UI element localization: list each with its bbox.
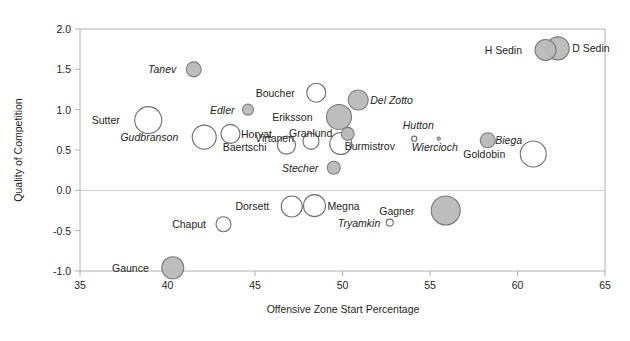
y-tick-label: 2.0 bbox=[56, 23, 71, 35]
data-label-sutter: Sutter bbox=[92, 114, 121, 126]
data-point-gaunce[interactable] bbox=[162, 257, 184, 279]
data-point-tanev[interactable] bbox=[186, 62, 201, 77]
data-label-h-sedin: H Sedin bbox=[485, 44, 523, 56]
data-label-chaput: Chaput bbox=[172, 218, 206, 230]
y-tick-label: -1.0 bbox=[53, 265, 71, 277]
data-point-stecher[interactable] bbox=[327, 161, 340, 174]
data-point-gudbranson[interactable] bbox=[192, 125, 216, 149]
y-tick-label: 1.5 bbox=[56, 63, 71, 75]
data-point-tryamkin[interactable] bbox=[386, 219, 393, 226]
data-label-eriksson: Eriksson bbox=[272, 111, 312, 123]
data-label-gagner: Gagner bbox=[379, 205, 415, 217]
data-label-boucher: Boucher bbox=[256, 87, 296, 99]
data-point-edler[interactable] bbox=[243, 104, 254, 115]
data-label-granlund: Granlund bbox=[289, 127, 332, 139]
y-axis-title: Quality of Competition bbox=[12, 98, 24, 201]
data-label-biega: Biega bbox=[495, 134, 522, 146]
data-label-dorsett: Dorsett bbox=[235, 200, 269, 212]
x-tick-label: 60 bbox=[512, 279, 524, 291]
y-tick-label: 0.5 bbox=[56, 144, 71, 156]
data-point-goldobin[interactable] bbox=[520, 141, 546, 167]
data-label-megna: Megna bbox=[328, 200, 360, 212]
data-point-chaput[interactable] bbox=[216, 217, 231, 232]
x-tick-label: 55 bbox=[424, 279, 436, 291]
chart-canvas: 35404550556065 2.01.51.00.50.0-0.5-1.0 T… bbox=[0, 0, 630, 341]
bubble-chart: 35404550556065 2.01.51.00.50.0-0.5-1.0 T… bbox=[0, 0, 630, 341]
data-point-eriksson[interactable] bbox=[327, 104, 352, 129]
data-point-boucher[interactable] bbox=[307, 83, 326, 102]
x-tick-label: 35 bbox=[74, 279, 86, 291]
data-point-del-zotto[interactable] bbox=[348, 90, 368, 110]
data-label-goldobin: Goldobin bbox=[463, 148, 505, 160]
data-point-h-sedin[interactable] bbox=[535, 39, 556, 60]
x-axis-title: Offensive Zone Start Percentage bbox=[267, 303, 420, 315]
data-label-tryamkin: Tryamkin bbox=[338, 217, 381, 229]
data-point-gagner[interactable] bbox=[431, 196, 460, 225]
y-tick-label: 0.0 bbox=[56, 184, 71, 196]
data-label-burmistrov: Burmistrov bbox=[345, 140, 396, 152]
x-axis-ticks: 35404550556065 bbox=[74, 271, 611, 291]
x-tick-label: 45 bbox=[249, 279, 261, 291]
x-tick-label: 50 bbox=[337, 279, 349, 291]
data-label-tanev: Tanev bbox=[148, 63, 177, 75]
data-label-hutton: Hutton bbox=[403, 119, 434, 131]
y-axis-ticks: 2.01.51.00.50.0-0.5-1.0 bbox=[53, 23, 80, 277]
data-label-del-zotto: Del Zotto bbox=[370, 94, 413, 106]
data-point-biega[interactable] bbox=[480, 133, 495, 148]
data-point-dorsett[interactable] bbox=[281, 196, 302, 217]
data-point-sutter[interactable] bbox=[135, 107, 162, 134]
data-label-stecher: Stecher bbox=[282, 162, 319, 174]
x-tick-label: 40 bbox=[162, 279, 174, 291]
x-tick-label: 65 bbox=[599, 279, 611, 291]
data-label-d-sedin: D Sedin bbox=[572, 42, 610, 54]
data-point-megna[interactable] bbox=[304, 195, 326, 217]
data-label-gudbranson: Gudbranson bbox=[120, 131, 178, 143]
y-tick-label: 1.0 bbox=[56, 104, 71, 116]
data-label-gaunce: Gaunce bbox=[112, 262, 149, 274]
y-tick-label: -0.5 bbox=[53, 225, 71, 237]
data-label-wiercioch: Wiercioch bbox=[412, 141, 458, 153]
data-label-edler: Edler bbox=[210, 104, 235, 116]
data-point-granlund[interactable] bbox=[341, 127, 354, 140]
